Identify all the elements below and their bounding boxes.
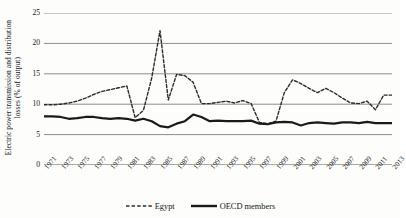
chart-legend: Egypt OECD members xyxy=(0,197,401,215)
y-axis-tick-label: 5 xyxy=(24,131,40,139)
legend-swatch-solid xyxy=(191,202,217,210)
y-axis-tick-label: 10 xyxy=(24,100,40,108)
y-axis-tick-label: 25 xyxy=(24,9,40,17)
legend-item-oecd-members: OECD members xyxy=(191,202,276,211)
y-axis-title-line-1: Electric power transmission and distribu… xyxy=(4,20,13,155)
legend-item-egypt: Egypt xyxy=(126,202,175,211)
legend-swatch-dashed xyxy=(126,202,152,210)
legend-label-egypt: Egypt xyxy=(155,202,175,211)
x-axis-tick-label: 2013 xyxy=(391,155,406,171)
y-axis-tick-label: 0 xyxy=(24,161,40,169)
plot-area xyxy=(44,13,392,165)
chart-plot-svg xyxy=(44,13,392,165)
series-line-egypt xyxy=(44,31,392,124)
legend-label-oecd-members: OECD members xyxy=(220,202,276,211)
y-axis-tick-label: 20 xyxy=(24,39,40,47)
gridlines xyxy=(44,13,392,165)
series-line-oecd-members xyxy=(44,115,392,128)
y-axis-tick-labels: 0510152025 xyxy=(20,0,40,175)
series-lines xyxy=(44,31,392,128)
y-axis-tick-label: 15 xyxy=(24,70,40,78)
